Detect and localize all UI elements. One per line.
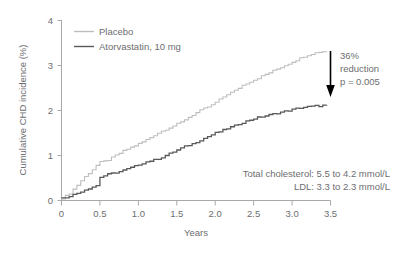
y-tick-label-1: 1	[48, 150, 53, 161]
x-axis-tick-labels: 0 0.5 1.0 1.5 2.0 2.5 3.0 3.5	[59, 208, 337, 219]
reduction-line-2: reduction	[340, 63, 379, 74]
reduction-line-3: p = 0.005	[340, 76, 380, 87]
legend-label-placebo: Placebo	[99, 26, 133, 37]
y-axis-tick-labels: 0 1 2 3 4	[48, 15, 53, 206]
y-axis-title: Cumulative CHD incidence (%)	[17, 45, 28, 176]
x-tick-label-2: 1.0	[132, 208, 145, 219]
y-tick-label-2: 2	[48, 105, 53, 116]
series-line-atorvastatin	[62, 105, 327, 198]
x-axis-title: Years	[184, 227, 208, 238]
chart-legend: Placebo Atorvastatin, 10 mg	[74, 26, 181, 52]
x-tick-label-0: 0	[59, 208, 64, 219]
x-axis-ticks	[62, 201, 331, 206]
y-tick-label-3: 3	[48, 60, 53, 71]
x-tick-label-1: 0.5	[93, 208, 106, 219]
x-tick-label-4: 2.0	[209, 208, 222, 219]
y-tick-label-0: 0	[48, 195, 53, 206]
x-tick-label-6: 3.0	[285, 208, 298, 219]
chd-incidence-chart: 0 1 2 3 4 0 0.5 1.0 1.5 2.0 2.5 3.0 3.5	[0, 0, 400, 257]
lipid-line-1: Total cholesterol: 5.5 to 4.2 mmol/L	[243, 168, 390, 179]
x-tick-label-3: 1.5	[170, 208, 183, 219]
y-tick-label-4: 4	[48, 15, 53, 26]
legend-label-atorvastatin: Atorvastatin, 10 mg	[99, 41, 181, 52]
reduction-arrow-head-icon	[326, 85, 335, 97]
lipid-annotation: Total cholesterol: 5.5 to 4.2 mmol/L LDL…	[243, 168, 390, 192]
lipid-line-2: LDL: 3.3 to 2.3 mmol/L	[294, 181, 390, 192]
y-axis-ticks	[58, 21, 62, 201]
x-tick-label-5: 2.5	[247, 208, 260, 219]
reduction-line-1: 36%	[340, 50, 360, 61]
chart-canvas: 0 1 2 3 4 0 0.5 1.0 1.5 2.0 2.5 3.0 3.5	[0, 0, 400, 257]
x-tick-label-7: 3.5	[324, 208, 337, 219]
reduction-annotation: 36% reduction p = 0.005	[326, 50, 380, 97]
